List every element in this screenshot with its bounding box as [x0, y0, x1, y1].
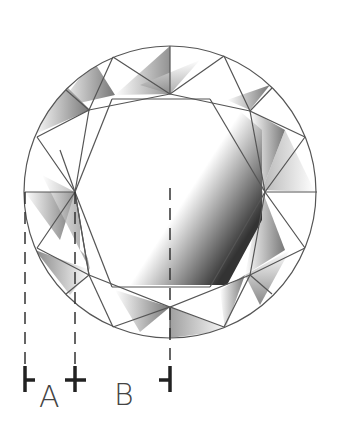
label-b: B: [114, 380, 134, 410]
label-a: A: [39, 382, 60, 412]
diamond-diagram: [0, 0, 341, 439]
